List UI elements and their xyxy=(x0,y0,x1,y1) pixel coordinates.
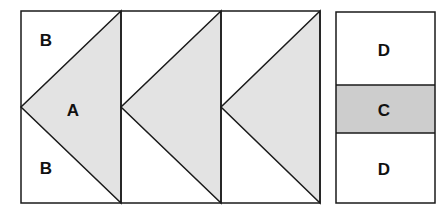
label-d-bottom: D xyxy=(378,160,390,179)
label-b-bottom: B xyxy=(40,159,52,178)
geese-unit-3 xyxy=(221,11,320,203)
geese-unit-2 xyxy=(121,11,221,203)
triangle-2 xyxy=(121,11,221,203)
label-c: C xyxy=(378,101,390,120)
triangle-3 xyxy=(221,11,320,203)
label-a: A xyxy=(67,101,79,120)
label-d-top: D xyxy=(378,41,390,60)
quilt-diagram: B A B D C D xyxy=(0,0,448,211)
side-strip: D C D xyxy=(336,12,435,203)
label-b-top: B xyxy=(40,31,52,50)
